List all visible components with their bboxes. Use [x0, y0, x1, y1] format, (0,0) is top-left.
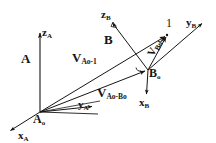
vector-ao-bo-subscript: Ao-Bo	[106, 92, 126, 101]
y-a-axis-label: yA	[78, 99, 89, 110]
x-a-axis-label: xA	[18, 130, 29, 141]
origin-a-label: Ao	[33, 113, 45, 125]
origin-b-subscript: o	[157, 73, 161, 81]
frame-a-label: A	[21, 52, 30, 65]
vector-ao-1-subscript: Ao-1	[81, 57, 96, 66]
z-b-subscript: B	[106, 14, 111, 22]
origin-a-subscript: o	[42, 119, 46, 127]
z-a-axis-label: zA	[42, 27, 52, 38]
vector-ao-bo-label: VAo-Bo	[97, 86, 127, 99]
origin-b-label: Bo	[149, 67, 161, 79]
x-b-axis-label: xB	[139, 97, 149, 108]
y-b-axis-label: yB	[186, 17, 196, 28]
point-1-dot	[166, 34, 168, 36]
point-1-label: 1	[166, 17, 172, 29]
vector-frame-diagram: A zA xA yA Ao B zB yB xB Bo 1 VAo-1	[0, 0, 216, 143]
z-a-subscript: A	[47, 32, 52, 40]
frame-a-axes	[11, 33, 101, 131]
y-b-subscript: B	[192, 22, 197, 30]
x-b-subscript: B	[145, 102, 150, 110]
vector-ao-to-bo	[40, 71, 145, 112]
y-a-axis-line-secondary	[40, 112, 98, 114]
y-a-subscript: A	[84, 104, 89, 112]
z-b-axis-line	[113, 23, 149, 70]
frame-b-label: B	[104, 33, 113, 46]
vector-ao-1-label: VAo-1	[72, 51, 97, 64]
x-a-subscript: A	[24, 135, 29, 143]
x-b-axis-line	[147, 70, 149, 94]
right-angle-mark-bo	[136, 68, 141, 72]
z-b-axis-label: zB	[101, 9, 111, 20]
